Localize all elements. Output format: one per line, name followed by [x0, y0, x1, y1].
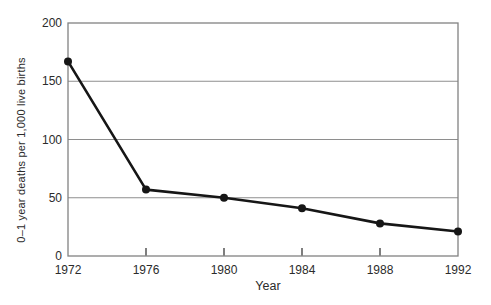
x-tick-label-1972: 1972: [55, 263, 82, 277]
data-line: [68, 61, 458, 231]
x-tick-label-1992: 1992: [445, 263, 472, 277]
x-tick-label-1988: 1988: [367, 263, 394, 277]
y-tick-label-100: 100: [0, 132, 62, 148]
y-tick-label-200: 200: [0, 15, 62, 31]
data-point-1972: [64, 57, 72, 65]
x-tick-label-1984: 1984: [289, 263, 316, 277]
data-point-1992: [454, 228, 462, 236]
data-point-1976: [142, 186, 150, 194]
data-point-1980: [220, 194, 228, 202]
y-tick-label-50: 50: [0, 190, 62, 206]
data-point-1984: [298, 204, 306, 212]
x-axis-title: Year: [255, 279, 280, 293]
x-tick-label-1980: 1980: [211, 263, 238, 277]
line-chart-canvas: [0, 0, 491, 305]
data-point-1988: [376, 219, 384, 227]
y-tick-label-0: 0: [0, 248, 62, 264]
chart-figure: 0–1 year deaths per 1,000 live births Ye…: [0, 0, 491, 305]
x-tick-label-1976: 1976: [133, 263, 160, 277]
y-tick-label-150: 150: [0, 73, 62, 89]
